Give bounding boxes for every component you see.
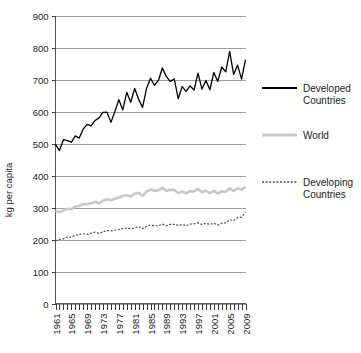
x-tick-label: 1981 [130, 314, 141, 335]
y-tick-label: 200 [33, 235, 49, 246]
y-tick-label: 900 [33, 11, 49, 22]
y-tick-label: 600 [33, 107, 49, 118]
y-tick-label: 500 [33, 139, 49, 150]
x-tick-label: 1989 [161, 314, 172, 335]
y-tick-label: 300 [33, 203, 49, 214]
x-tick-label: 1977 [114, 314, 125, 335]
y-tick-label: 100 [33, 267, 49, 278]
chart-svg: 0100200300400500600700800900 19611965196… [0, 0, 361, 353]
y-tick-label: 700 [33, 75, 49, 86]
x-tick-label: 1969 [82, 314, 93, 335]
line-chart: 0100200300400500600700800900 19611965196… [0, 0, 361, 353]
legend-label-line1: Developed [303, 83, 351, 94]
y-tick-label: 400 [33, 171, 49, 182]
x-tick-label: 1961 [51, 314, 62, 335]
x-tick-label: 1993 [177, 314, 188, 335]
x-tick-label: 2005 [225, 314, 236, 335]
legend-label-line1: Developing [303, 177, 353, 188]
x-tick-label: 2009 [241, 314, 252, 335]
x-tick-label: 1965 [66, 314, 77, 335]
legend-label-line2: Countries [303, 189, 346, 200]
y-tick-label: 0 [43, 299, 48, 310]
x-tick-label: 2001 [209, 314, 220, 335]
x-tick-label: 1997 [193, 314, 204, 335]
legend-label-line1: World [303, 130, 329, 141]
legend-label-line2: Countries [303, 95, 346, 106]
x-tick-label: 1973 [98, 314, 109, 335]
y-axis-title: kg per capita [3, 162, 14, 217]
y-tick-label: 800 [33, 43, 49, 54]
x-tick-label: 1985 [146, 314, 157, 335]
